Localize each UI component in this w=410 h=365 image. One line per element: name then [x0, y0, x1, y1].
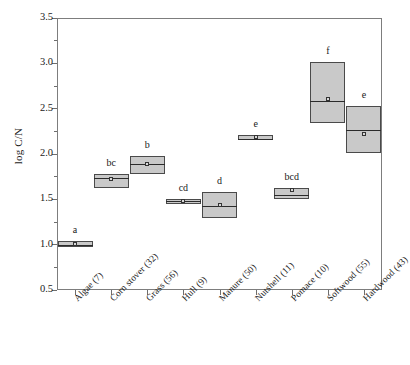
plot-area [57, 18, 382, 290]
significance-letter: d [195, 175, 245, 186]
box-plot-mean-marker [254, 135, 258, 139]
significance-letter: b [122, 139, 172, 150]
y-axis-tick-label: 3.5 [13, 11, 53, 22]
y-axis-minor-tick [54, 86, 57, 87]
y-axis-tick-label: 3.0 [13, 56, 53, 67]
box-plot-mean-marker [218, 203, 222, 207]
box-plot-mean-marker [362, 132, 366, 136]
box-plot-mean-marker [290, 188, 294, 192]
significance-letter: e [339, 89, 389, 100]
box-plot-mean-marker [326, 97, 330, 101]
y-axis-minor-tick [54, 267, 57, 268]
box-plot-mean-marker [181, 199, 185, 203]
y-axis-title: log C/N [12, 106, 24, 186]
significance-letter: a [50, 224, 100, 235]
box-plot-median-line [274, 195, 309, 196]
significance-letter: e [231, 118, 281, 129]
y-axis-tick-label: 1.5 [13, 192, 53, 203]
significance-letter: bc [86, 157, 136, 168]
y-axis-minor-tick [54, 40, 57, 41]
y-axis-tick-label: 2.5 [13, 102, 53, 113]
box-plot-mean-marker [109, 177, 113, 181]
significance-letter: f [303, 45, 353, 56]
box-plot-mean-marker [145, 162, 149, 166]
y-axis-minor-tick [54, 176, 57, 177]
significance-letter: bcd [267, 171, 317, 182]
box-plot-mean-marker [73, 242, 77, 246]
y-axis-tick-label: 0.5 [13, 283, 53, 294]
y-axis-tick-label: 2.0 [13, 147, 53, 158]
y-axis-minor-tick [54, 131, 57, 132]
y-axis-minor-tick [54, 222, 57, 223]
y-axis-tick-label: 1.0 [13, 238, 53, 249]
